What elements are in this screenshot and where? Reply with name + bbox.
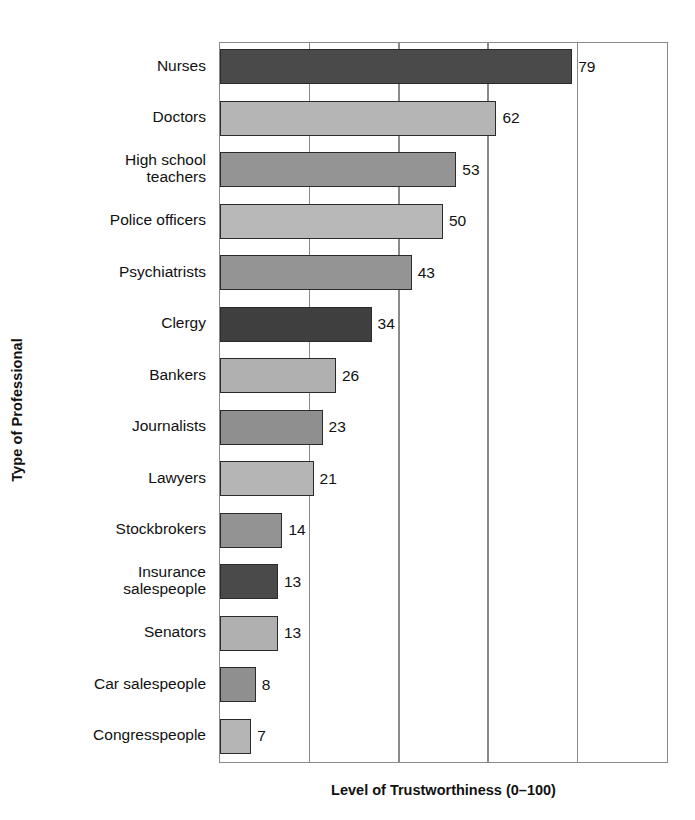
bar — [220, 564, 278, 599]
gridline-80 — [577, 43, 578, 762]
bar-value-label: 13 — [284, 574, 301, 590]
bar-chart: Type of Professional NursesDoctorsHigh s… — [0, 0, 695, 820]
bar — [220, 667, 256, 702]
bar-value-label: 62 — [502, 110, 519, 126]
bar — [220, 307, 372, 342]
bar — [220, 616, 278, 651]
category-label: Psychiatrists — [30, 263, 206, 280]
bar — [220, 49, 572, 84]
category-label: Bankers — [30, 366, 206, 383]
bar — [220, 513, 282, 548]
bar-value-label: 79 — [578, 59, 595, 75]
bar-value-label: 14 — [288, 522, 305, 538]
bar-value-label: 8 — [262, 677, 271, 693]
category-axis-labels: NursesDoctorsHigh school teachersPolice … — [36, 42, 212, 763]
bar-value-label: 13 — [284, 625, 301, 641]
bar — [220, 410, 323, 445]
gridline-20 — [309, 43, 310, 762]
bar — [220, 255, 412, 290]
plot-area: 79625350433426232114131387 — [219, 42, 668, 763]
category-label: Journalists — [30, 417, 206, 434]
y-axis-title-text: Type of Professional — [9, 338, 25, 482]
bar-value-label: 34 — [378, 316, 395, 332]
category-label: Nurses — [30, 57, 206, 74]
bar — [220, 461, 314, 496]
bar — [220, 101, 496, 136]
bar-value-label: 21 — [320, 471, 337, 487]
bar — [220, 719, 251, 754]
bar-value-label: 23 — [329, 419, 346, 435]
category-label: High school teachers — [30, 151, 206, 186]
bar — [220, 152, 456, 187]
category-label: Congresspeople — [30, 726, 206, 743]
category-label: Stockbrokers — [30, 520, 206, 537]
bar-value-label: 7 — [257, 728, 266, 744]
category-label: Lawyers — [30, 469, 206, 486]
bar-value-label: 50 — [449, 213, 466, 229]
gridline-40 — [398, 43, 399, 762]
x-axis-title: Level of Trustworthiness (0–100) — [219, 782, 668, 798]
category-label: Insurance salespeople — [30, 563, 206, 598]
category-label: Car salespeople — [30, 675, 206, 692]
category-label: Doctors — [30, 108, 206, 125]
y-axis-title: Type of Professional — [0, 0, 34, 820]
bar — [220, 204, 443, 239]
bar — [220, 358, 336, 393]
gridline-60 — [487, 43, 488, 762]
bar-value-label: 26 — [342, 368, 359, 384]
category-label: Police officers — [30, 211, 206, 228]
category-label: Senators — [30, 623, 206, 640]
bar-value-label: 53 — [462, 162, 479, 178]
category-label: Clergy — [30, 314, 206, 331]
bar-value-label: 43 — [418, 265, 435, 281]
